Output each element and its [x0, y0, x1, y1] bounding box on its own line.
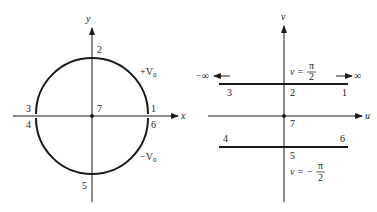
- u-axis-label: u: [365, 110, 370, 121]
- svg-text:π: π: [309, 60, 314, 71]
- svg-text:∞: ∞: [354, 70, 361, 81]
- point-5-label: 5: [82, 180, 87, 191]
- conformal-map-diagram: x y +V0 −V0 1 2 3 4 5 6 7 u v v = π 2 v …: [0, 0, 377, 212]
- svg-text:2: 2: [309, 71, 314, 82]
- point-1-label: 1: [342, 87, 347, 98]
- point-4-label: 4: [223, 133, 228, 144]
- y-axis-label: y: [85, 13, 91, 24]
- top-line-equation: v = π 2: [290, 60, 316, 82]
- svg-text:−∞: −∞: [196, 70, 209, 81]
- origin-point: [90, 114, 94, 118]
- svg-text:v = −: v = −: [290, 166, 313, 177]
- positive-infinity-indicator: ∞: [336, 70, 361, 81]
- origin-point: [282, 114, 286, 118]
- point-7-label: 7: [97, 103, 102, 114]
- svg-text:2: 2: [318, 172, 323, 183]
- right-panel-w-plane: u v v = π 2 v = − π 2 −∞ ∞ 1 2 3 4 5: [196, 11, 370, 202]
- left-panel-z-plane: x y +V0 −V0 1 2 3 4 5 6 7: [13, 13, 186, 202]
- point-7-label: 7: [290, 118, 295, 129]
- bottom-line-equation: v = − π 2: [290, 160, 325, 183]
- point-6-label: 6: [151, 119, 156, 130]
- point-5-label: 5: [290, 150, 295, 161]
- point-2-label: 2: [97, 44, 102, 55]
- point-1-label: 1: [151, 103, 156, 114]
- svg-text:π: π: [318, 160, 323, 171]
- point-3-label: 3: [26, 103, 31, 114]
- point-4-label: 4: [26, 119, 31, 130]
- upper-potential-label: +V0: [140, 66, 157, 79]
- point-3-label: 3: [227, 87, 232, 98]
- v-axis-label: v: [281, 11, 286, 22]
- negative-infinity-indicator: −∞: [196, 70, 230, 81]
- lower-potential-label: −V0: [140, 151, 157, 164]
- x-axis-label: x: [180, 110, 186, 121]
- svg-text:v =: v =: [290, 66, 304, 77]
- point-2-label: 2: [290, 87, 295, 98]
- point-6-label: 6: [340, 133, 345, 144]
